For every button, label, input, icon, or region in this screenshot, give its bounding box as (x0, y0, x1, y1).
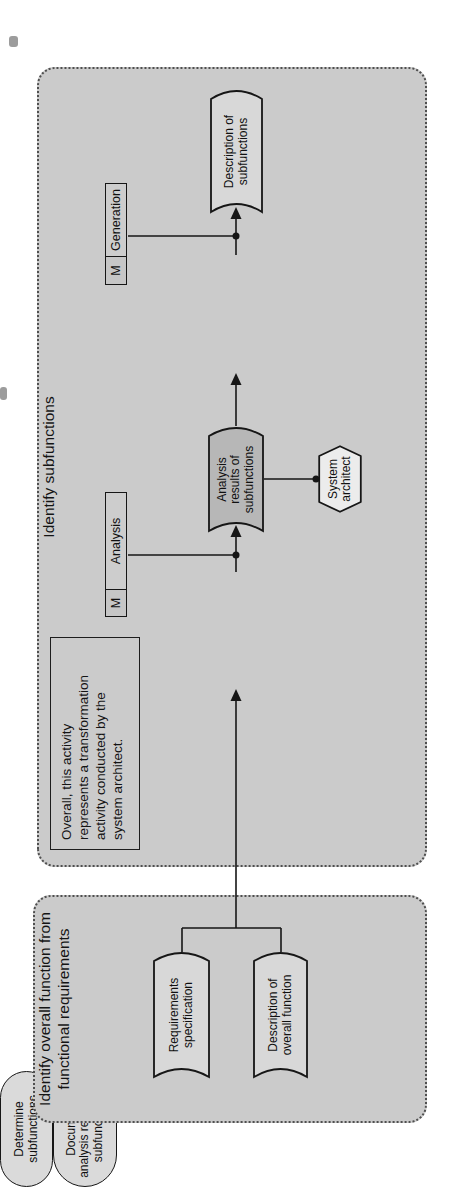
datastore-analysis-results-of-subfunctions: Analysis results of subfunctions (208, 427, 264, 532)
scan-artifact (0, 387, 7, 400)
datastore-requirements-specification: Requirements specification (153, 952, 210, 1078)
method-name: Generation (106, 184, 126, 256)
method-box-generation: M Generation (105, 183, 127, 285)
method-m-cell: M (106, 589, 126, 616)
arrowhead-into-determine (231, 689, 242, 701)
method-name: Analysis (106, 493, 126, 589)
arrowhead-into-document (231, 373, 242, 385)
method-m-cell: M (106, 256, 126, 284)
actor-label: System architect (318, 445, 362, 513)
datastore-label: Description of subfunctions (210, 90, 263, 213)
actor-system-architect: System architect (318, 445, 362, 513)
method-box-analysis: M Analysis (105, 492, 127, 617)
diagram-stage: Identify overall function from functiona… (0, 0, 451, 1187)
scan-artifact (9, 36, 18, 47)
datastore-label: Analysis results of subfunctions (208, 427, 264, 532)
junction-dot-analysis (233, 552, 240, 559)
datastore-description-of-subfunctions: Description of subfunctions (210, 90, 263, 213)
datastore-label: Description of overall function (253, 952, 308, 1078)
datastore-label: Requirements specification (153, 952, 210, 1078)
store-stub-lines (182, 928, 281, 952)
datastore-description-of-overall-function: Description of overall function (253, 952, 308, 1078)
junction-dot-generation (233, 233, 240, 240)
